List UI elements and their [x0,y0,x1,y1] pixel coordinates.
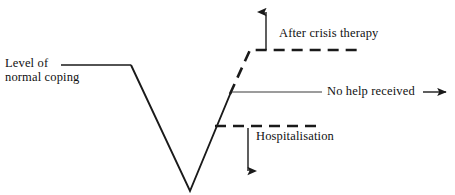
label-level-of-normal-coping: Level of normal coping [5,57,80,84]
label-hospitalisation: Hospitalisation [256,130,334,144]
label-no-help-received: No help received [327,85,415,99]
label-after-crisis-therapy: After crisis therapy [279,27,379,41]
crisis-response-diagram: Level of normal coping After crisis ther… [0,0,455,195]
crisis-v-curve [131,65,231,191]
